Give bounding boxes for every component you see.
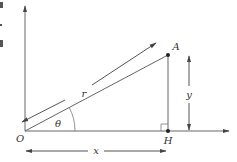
label-theta: θ [55,118,61,129]
label-r: r [82,88,88,99]
hypotenuse-OA [25,55,168,131]
point-H [166,129,170,133]
polar-diagram: r θ O A H y x [0,0,237,162]
point-A [166,53,170,57]
label-y: y [185,89,192,100]
label-A: A [171,41,179,52]
label-H: H [163,135,173,146]
label-x: x [93,145,99,156]
angle-arc [69,107,75,131]
cropped-text-fragments [0,2,3,47]
label-O: O [16,133,24,144]
